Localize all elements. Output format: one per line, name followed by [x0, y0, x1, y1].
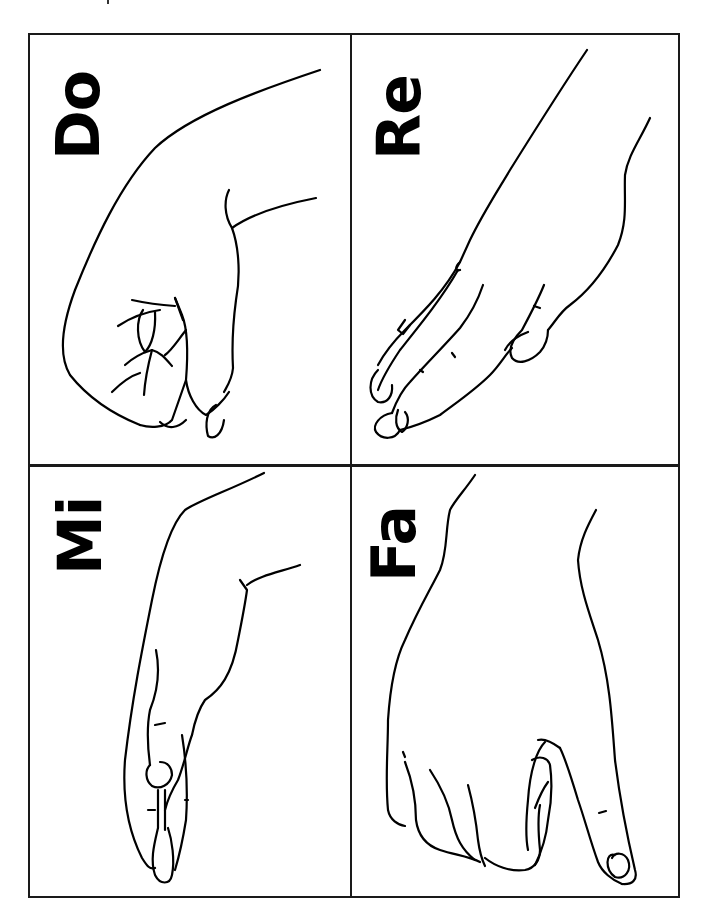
hand-re-drawing [371, 50, 651, 438]
hand-drawings [0, 0, 703, 920]
hand-do-drawing [63, 70, 320, 437]
solfege-hand-signs-sheet: Do Re Mi Fa [0, 0, 703, 920]
hand-mi-drawing [124, 473, 300, 883]
hand-fa-drawing [387, 475, 636, 884]
